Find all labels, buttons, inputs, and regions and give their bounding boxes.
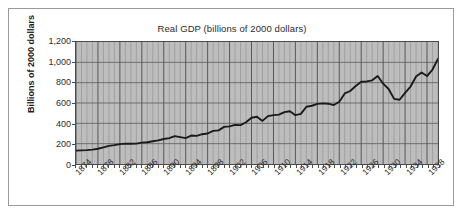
x-tick-mark (235, 165, 236, 168)
x-tick-mark (224, 165, 225, 168)
x-tick-mark (240, 165, 241, 168)
x-tick-mark (213, 165, 214, 168)
y-tick-label: 1,000 (48, 57, 71, 67)
x-tick-mark (268, 165, 269, 168)
x-tick-mark (367, 165, 368, 168)
y-tick-mark (72, 103, 75, 104)
x-tick-mark (86, 165, 87, 168)
x-tick-mark (229, 165, 230, 168)
y-tick-mark (72, 62, 75, 63)
y-tick-label: 0 (66, 160, 71, 170)
plot-area (75, 41, 439, 165)
x-tick-mark (130, 165, 131, 168)
x-tick-mark (400, 165, 401, 168)
x-tick-mark (246, 165, 247, 168)
x-tick-mark (279, 165, 280, 168)
x-tick-mark (196, 165, 197, 168)
x-tick-mark (202, 165, 203, 168)
x-tick-mark (318, 165, 319, 168)
x-tick-mark (180, 165, 181, 168)
x-tick-mark (340, 165, 341, 168)
x-tick-mark (389, 165, 390, 168)
x-tick-mark (345, 165, 346, 168)
x-tick-mark (334, 165, 335, 168)
x-tick-mark (422, 165, 423, 168)
x-tick-mark (439, 165, 440, 168)
y-tick-label: 400 (56, 119, 71, 129)
x-tick-mark (251, 165, 252, 168)
x-tick-mark (141, 165, 142, 168)
x-tick-mark (263, 165, 264, 168)
x-tick-mark (323, 165, 324, 168)
x-tick-mark (428, 165, 429, 168)
x-tick-mark (174, 165, 175, 168)
x-tick-mark (307, 165, 308, 168)
x-tick-mark (285, 165, 286, 168)
x-tick-mark (257, 165, 258, 168)
x-tick-mark (163, 165, 164, 168)
x-tick-mark (114, 165, 115, 168)
x-tick-mark (384, 165, 385, 168)
x-tick-mark (169, 165, 170, 168)
x-tick-mark (108, 165, 109, 168)
x-tick-mark (103, 165, 104, 168)
x-tick-mark (373, 165, 374, 168)
x-tick-mark (417, 165, 418, 168)
y-tick-label: 1,200 (48, 36, 71, 46)
x-tick-mark (378, 165, 379, 168)
x-tick-mark (296, 165, 297, 168)
x-tick-mark (97, 165, 98, 168)
x-tick-mark (136, 165, 137, 168)
x-tick-mark (119, 165, 120, 168)
x-tick-mark (433, 165, 434, 168)
chart-svg (76, 42, 438, 164)
x-tick-mark (191, 165, 192, 168)
x-tick-mark (406, 165, 407, 168)
x-tick-mark (356, 165, 357, 168)
y-tick-mark (72, 124, 75, 125)
x-tick-mark (185, 165, 186, 168)
chart-title: Real GDP (billions of 2000 dollars) (9, 23, 455, 34)
x-tick-mark (301, 165, 302, 168)
x-tick-mark (362, 165, 363, 168)
x-tick-mark (81, 165, 82, 168)
x-tick-mark (147, 165, 148, 168)
x-tick-mark (312, 165, 313, 168)
x-tick-mark (158, 165, 159, 168)
x-tick-mark (351, 165, 352, 168)
x-tick-mark (329, 165, 330, 168)
y-tick-mark (72, 41, 75, 42)
y-tick-mark (72, 82, 75, 83)
x-tick-mark (125, 165, 126, 168)
x-tick-mark (411, 165, 412, 168)
y-tick-mark (72, 144, 75, 145)
y-tick-label: 800 (56, 77, 71, 87)
y-tick-label: 600 (56, 98, 71, 108)
x-tick-mark (152, 165, 153, 168)
y-axis-title: Billions of 2000 dollars (26, 4, 36, 124)
y-tick-label: 200 (56, 139, 71, 149)
x-tick-mark (274, 165, 275, 168)
plot-area-wrapper: 02004006008001,0001,200 1874187818821886… (75, 41, 439, 165)
x-tick-mark (395, 165, 396, 168)
figure-frame: Real GDP (billions of 2000 dollars) Bill… (8, 8, 454, 206)
x-tick-mark (218, 165, 219, 168)
x-tick-mark (75, 165, 76, 168)
x-tick-mark (92, 165, 93, 168)
x-tick-mark (290, 165, 291, 168)
x-tick-mark (207, 165, 208, 168)
